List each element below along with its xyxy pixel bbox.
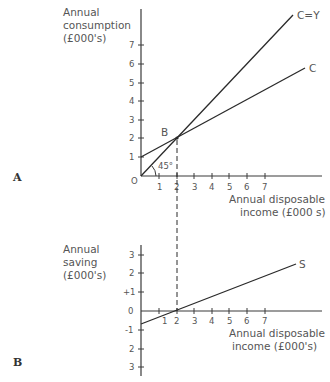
y-tick-label: +1 xyxy=(123,287,136,297)
y-tick-label: 5 xyxy=(129,78,134,88)
panel-a: A Annual consumption (£000's) 1 2 3 4 5 … xyxy=(12,6,326,218)
saving-line xyxy=(141,264,296,324)
y-tick-label: 1 xyxy=(129,152,134,162)
x-tick-label: 3 xyxy=(192,316,197,326)
x-tick-label: 1 xyxy=(157,182,162,192)
income-axis-label-a-line2: income (£000 s) xyxy=(240,206,326,218)
point-b xyxy=(175,136,178,139)
y-tick-label: 3 xyxy=(129,115,134,125)
x-tick-label: 4 xyxy=(209,182,214,192)
income-axis-label-a-line1: Annual disposable xyxy=(229,193,325,205)
y-tick-label: 2 xyxy=(129,133,134,143)
y-tick-label: -1 xyxy=(125,325,133,335)
consumption-axis-label-line2: consumption xyxy=(63,19,131,31)
income-axis-label-b-line1: Annual disposable xyxy=(229,327,325,339)
saving-axis-label-line1: Annual xyxy=(63,243,100,255)
x-tick-label: 5 xyxy=(227,316,232,326)
y-tick-label: 0 xyxy=(128,306,133,316)
y-tick-label: 3 xyxy=(129,250,134,260)
income-axis-label-b-line2: income (£000's) xyxy=(232,340,317,352)
point-b-label: B xyxy=(161,126,168,138)
x-tick-label: 3 xyxy=(192,182,197,192)
x-tick-label: 4 xyxy=(209,316,214,326)
x-tick-label: 6 xyxy=(244,182,249,192)
panel-b-label: B xyxy=(13,356,22,369)
consumption-line-label: C xyxy=(309,62,316,74)
y-tick-label: 3 xyxy=(129,362,134,372)
saving-line-label: S xyxy=(299,258,306,270)
x-tick-label: 1 xyxy=(162,316,167,326)
saving-axis-label-line3: (£000's) xyxy=(63,269,106,281)
y-tick-label: 6 xyxy=(129,59,134,69)
x-tick-label: 5 xyxy=(227,182,232,192)
saving-axis-label-line2: saving xyxy=(63,256,97,268)
x-tick-label: 7 xyxy=(262,182,267,192)
c-equals-y-label: C=Y xyxy=(297,9,320,21)
y-tick-label: 2 xyxy=(129,344,134,354)
consumption-line xyxy=(141,68,305,157)
y-tick-label: 4 xyxy=(129,96,134,106)
diagram-canvas: A Annual consumption (£000's) 1 2 3 4 5 … xyxy=(0,0,330,382)
angle-label: 45° xyxy=(158,161,173,171)
x-tick-label: 2 xyxy=(174,316,179,326)
panel-b: B Annual saving (£000's) 3 2 +1 0 -1 2 3 xyxy=(13,243,325,376)
x-tick-label: 6 xyxy=(244,316,249,326)
origin-label: O xyxy=(131,176,138,186)
angle-arc xyxy=(152,166,156,176)
y-tick-label: 2 xyxy=(129,268,134,278)
y-tick-label: 7 xyxy=(129,40,134,50)
panel-a-label: A xyxy=(12,171,22,184)
consumption-axis-label-line3: (£000's) xyxy=(63,32,106,44)
c-equals-y-line xyxy=(141,15,293,176)
consumption-axis-label-line1: Annual xyxy=(63,6,100,18)
x-tick-label: 7 xyxy=(262,316,267,326)
y-ticks-a: 1 2 3 4 5 6 7 O xyxy=(129,40,144,186)
